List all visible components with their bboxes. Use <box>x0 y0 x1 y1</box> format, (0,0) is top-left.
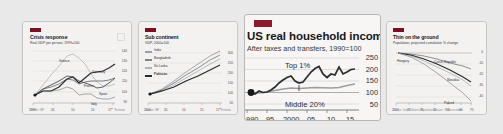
y-tick-90: 90 <box>115 100 127 104</box>
y-tick-120: 120 <box>115 69 127 73</box>
chart-source: Source: IMF <box>145 109 159 112</box>
chart-tag <box>30 28 41 32</box>
series-label-poland: Poland <box>444 101 454 105</box>
panel-title: US real household income <box>247 30 381 42</box>
chart-plot-area <box>392 47 484 109</box>
x-tick-05: 05 <box>307 115 315 121</box>
chart-plot-area <box>144 47 234 109</box>
x-tick-10: 10 <box>327 115 335 121</box>
y-tick-minus40: -40 <box>471 94 483 98</box>
panel-title: Crisis response <box>30 34 67 40</box>
y-tick-minus10: -10 <box>471 61 483 65</box>
panel-sub-continent[interactable]: Sub continent GDP, 2000=100 India Bangla… <box>138 21 238 115</box>
y-tick-130: 130 <box>115 59 127 63</box>
y-tick-50: 50 <box>360 100 378 109</box>
y-tick-300: 300 <box>221 51 233 55</box>
panel-thin-on-the-ground[interactable]: Thin on the ground Population, projected… <box>386 21 487 115</box>
panel-us-real-household-income[interactable]: US real household income After taxes and… <box>244 14 381 121</box>
x-tick-05: 05 <box>164 108 168 112</box>
y-tick-250: 250 <box>360 53 378 62</box>
x-tick-10: 10 <box>182 108 186 112</box>
series-label-slovakia: Slovakia <box>447 78 459 82</box>
x-tick-1990: 1990 <box>244 115 258 121</box>
panel-subtitle: GDP, 2000=100 <box>145 41 169 45</box>
series-label-france: France <box>84 84 94 88</box>
series-label-czech-republic: Czech Republic <box>434 60 456 64</box>
series-label-germany: Germany <box>92 70 105 74</box>
y-tick-minus30: -30 <box>471 83 483 87</box>
series-label-greece: Greece <box>59 59 69 63</box>
series-label-middle-20-percent: Middle 20% <box>285 100 325 109</box>
y-tick-0: 0 <box>471 50 483 54</box>
x-tick-95: 95 <box>266 115 274 121</box>
y-tick-200: 200 <box>221 71 233 75</box>
y-tick-minus20: -20 <box>471 72 483 76</box>
chart-plot-area <box>29 47 127 109</box>
x-tick-15: 15 <box>346 115 354 121</box>
series-label-top-1-percent: Top 1% <box>285 61 310 70</box>
panel-subtitle: Population, projected cumulative % chang… <box>393 41 458 45</box>
y-tick-250: 250 <box>221 61 233 65</box>
chart-source: Source: United Nations Population Divisi… <box>393 109 462 112</box>
x-tick-05: 05 <box>51 108 55 112</box>
y-tick-50: 50 <box>221 101 233 105</box>
x-tick-75: 75 <box>470 108 474 112</box>
chart-tag <box>254 20 272 27</box>
x-tick-2000: 2000 <box>283 115 299 121</box>
panel-crisis-response[interactable]: Crisis response Real GDP per person, 199… <box>22 21 132 115</box>
y-tick-100: 100 <box>221 91 233 95</box>
panel-corner-marker <box>117 33 125 41</box>
panel-subtitle: Real GDP per person, 1999=100 <box>30 41 79 45</box>
line-chart-svg <box>144 47 234 109</box>
x-tick-15: 15 <box>200 108 204 112</box>
y-tick-110: 110 <box>115 79 127 83</box>
x-tick-10: 10 <box>71 108 75 112</box>
y-tick-140: 140 <box>115 49 127 53</box>
series-label-italy: Italy <box>91 102 97 106</box>
y-tick-100: 100 <box>115 90 127 94</box>
chart-tag <box>145 28 156 32</box>
series-label-spain: Spain <box>99 92 107 96</box>
panel-title: Sub continent <box>145 34 178 40</box>
chart-credit: *Estimate <box>220 109 231 112</box>
line-chart-svg <box>392 47 484 109</box>
chart-source: Source: IMF <box>30 109 44 112</box>
panel-title: Thin on the ground <box>393 34 438 40</box>
series-label-hungary: Hungary <box>397 59 409 63</box>
y-tick-150: 150 <box>221 81 233 85</box>
x-tick-17: 17* <box>108 108 113 112</box>
line-chart-svg <box>29 47 127 109</box>
y-tick-100: 100 <box>360 88 378 97</box>
chart-strip: Crisis response Real GDP per person, 199… <box>0 0 503 134</box>
chart-credit: *Estimate <box>114 109 125 112</box>
chart-tag <box>393 28 404 32</box>
y-tick-200: 200 <box>360 65 378 74</box>
x-tick-15: 15 <box>91 108 95 112</box>
y-tick-150: 150 <box>360 76 378 85</box>
panel-subtitle: After taxes and transfers, 1990=100 <box>247 44 361 53</box>
